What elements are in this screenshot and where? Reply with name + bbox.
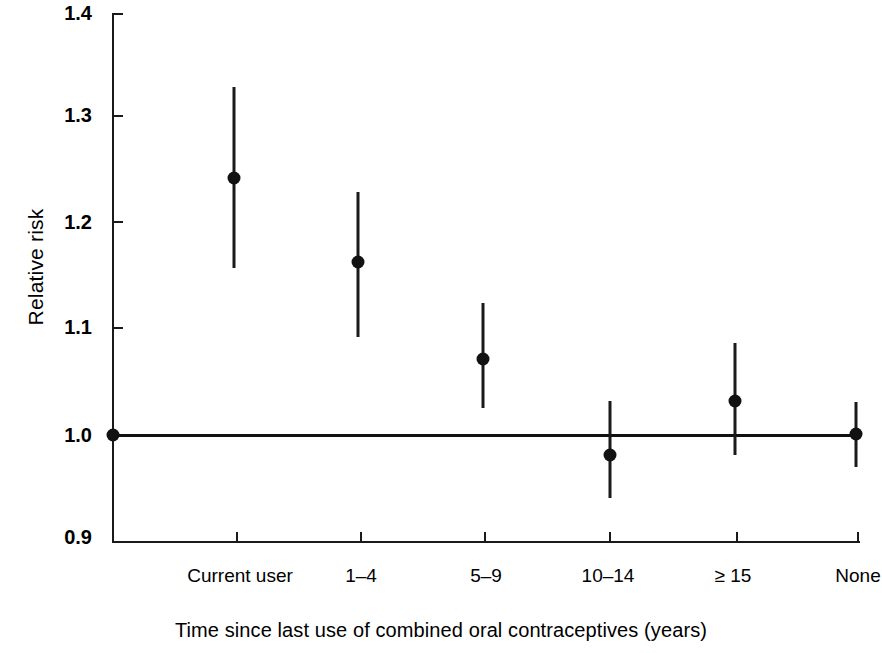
y-tick-label-1-0: 1.0 [22,425,92,445]
x-tick-label-5-9: 5–9 [470,566,502,585]
data-point-10-14 [604,449,617,462]
y-tick-mark-0-9 [114,541,123,543]
y-tick-label-1-1: 1.1 [22,317,92,337]
error-bar-5-9 [482,303,485,408]
x-tick-label-none: None [835,566,880,585]
reference-line [112,434,860,437]
x-tick-mark-1-4 [360,532,362,542]
data-point-none [850,428,863,441]
data-point-5-9 [477,353,490,366]
x-tick-mark-15-plus [736,532,738,542]
data-point-15-plus [729,395,742,408]
y-tick-mark-1-1 [114,327,123,329]
y-tick-mark-1-4 [114,13,123,15]
plot-frame [0,0,882,653]
y-tick-label-0-9: 0.9 [22,527,92,547]
data-point-current-user [228,172,241,185]
x-tick-label-current-user: Current user [187,566,293,585]
data-point-1-4 [352,256,365,269]
x-axis-title: Time since last use of combined oral con… [0,619,882,642]
x-tick-mark-10-14 [609,532,611,542]
relative-risk-chart: Relative risk 1.4 1.3 1.2 1.1 1.0 0.9 [0,0,882,653]
error-bar-none [855,402,858,467]
x-tick-label-10-14: 10–14 [582,566,635,585]
y-tick-mark-1-3 [114,115,123,117]
y-tick-label-1-4: 1.4 [22,3,92,23]
error-bar-15-plus [734,343,737,455]
y-tick-label-1-2: 1.2 [22,212,92,232]
x-tick-mark-5-9 [484,532,486,542]
x-tick-label-15-plus: ≥ 15 [715,566,752,585]
x-tick-mark-current-user [236,532,238,542]
error-bar-10-14 [609,401,612,498]
y-axis-line [112,13,114,543]
y-tick-mark-1-0 [114,435,123,437]
x-axis-line [112,541,860,543]
x-tick-label-1-4: 1–4 [345,566,377,585]
error-bar-current-user [233,87,236,268]
data-point-reference-origin [107,429,120,442]
y-tick-mark-1-2 [114,221,123,223]
y-tick-label-1-3: 1.3 [22,105,92,125]
x-tick-mark-none [857,532,859,542]
error-bar-1-4 [357,192,360,337]
x-tick-mark-origin [112,532,114,542]
